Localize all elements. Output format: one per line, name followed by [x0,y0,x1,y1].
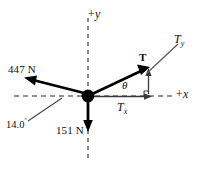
label-vector-T: T [139,52,146,63]
label-force-151: 151 N [56,125,84,136]
component-Ty-base: T [174,32,181,46]
label-axis-plus-y: +y [87,8,100,20]
vector-447-shaft [33,80,88,94]
label-angle-theta: θ [122,80,127,91]
component-Tx-base: T [117,100,124,114]
component-Ty-subscript: y [181,39,185,48]
angle-14-value: 14.0 [6,119,24,130]
vector-T-shaft [90,71,141,95]
degree-symbol-icon: º [24,116,26,125]
vector-447-arrowhead [24,76,37,86]
origin-node [82,90,95,103]
label-component-Tx: Tx [117,101,127,116]
label-axis-plus-x: +x [175,88,188,100]
vector-151-arrowhead [83,120,93,132]
component-Tx-subscript: x [124,107,128,116]
leader-line-14deg [28,98,62,121]
label-force-447: 447 N [8,64,36,75]
component-Tx-arrowhead [144,93,152,100]
label-component-Ty: Ty [174,33,184,48]
label-angle-14-degrees: 14.0º [6,117,27,130]
force-diagram: 447 N 151 N 14.0º +y +x T Ty Tx θ [0,0,206,175]
